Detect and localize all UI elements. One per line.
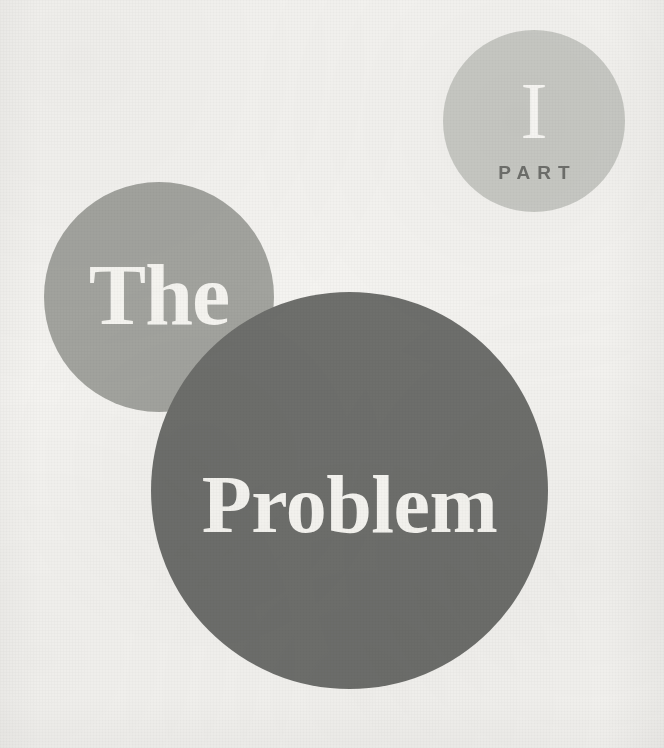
part-badge-circle: I PART (443, 30, 625, 212)
part-divider-page: I PART The Problem (0, 0, 664, 748)
title-word-problem: Problem (202, 464, 498, 546)
part-label: PART (498, 162, 576, 184)
title-circle-problem: Problem (151, 292, 548, 689)
title-word-the: The (89, 252, 229, 338)
part-roman-numeral: I (521, 78, 548, 144)
